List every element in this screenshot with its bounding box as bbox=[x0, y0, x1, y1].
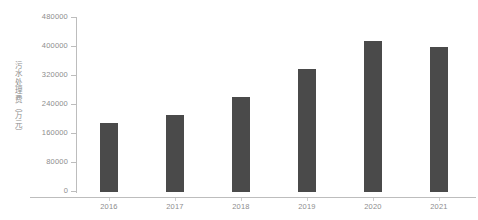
bar[interactable] bbox=[100, 123, 118, 192]
bar[interactable] bbox=[232, 97, 250, 192]
y-tick-label: 0 bbox=[64, 186, 68, 195]
x-tick-label: 2020 bbox=[364, 202, 382, 211]
bar-slot bbox=[340, 18, 406, 192]
bar[interactable] bbox=[166, 115, 184, 192]
x-tick-mark bbox=[307, 198, 308, 201]
plot-area: 080000160000240000320000400000480000 bbox=[76, 18, 472, 192]
bar-slot bbox=[142, 18, 208, 192]
y-tick-label: 480000 bbox=[42, 12, 68, 21]
x-tick-mark bbox=[109, 198, 110, 201]
bar-slot bbox=[208, 18, 274, 192]
y-tick-label: 80000 bbox=[46, 157, 68, 166]
y-tick-label: 160000 bbox=[42, 128, 68, 137]
x-tick-label: 2021 bbox=[430, 202, 448, 211]
x-tick-label: 2018 bbox=[232, 202, 250, 211]
x-tick-label: 2016 bbox=[100, 202, 118, 211]
y-tick-label: 320000 bbox=[42, 70, 68, 79]
x-tick-mark bbox=[241, 198, 242, 201]
x-tick-mark bbox=[373, 198, 374, 201]
y-tick-label: 400000 bbox=[42, 41, 68, 50]
x-tick-mark bbox=[175, 198, 176, 201]
x-tick-label: 2019 bbox=[298, 202, 316, 211]
bar-chart: 污水处理费（万元） 080000160000240000320000400000… bbox=[0, 0, 478, 220]
x-axis-line bbox=[30, 197, 476, 198]
bar-slot bbox=[274, 18, 340, 192]
bar-series bbox=[76, 18, 472, 192]
bar[interactable] bbox=[430, 47, 448, 192]
x-tick-mark bbox=[439, 198, 440, 201]
x-tick-label: 2017 bbox=[166, 202, 184, 211]
bar[interactable] bbox=[298, 69, 316, 192]
bar-slot bbox=[406, 18, 472, 192]
y-tick-label: 240000 bbox=[42, 99, 68, 108]
y-axis-title: 污水处理费（万元） bbox=[8, 0, 28, 198]
bar-slot bbox=[76, 18, 142, 192]
bar[interactable] bbox=[364, 41, 382, 192]
